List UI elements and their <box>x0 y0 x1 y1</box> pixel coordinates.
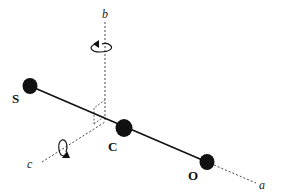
b-rotation-arrow-icon <box>91 40 111 52</box>
c-rotation-arrow-icon <box>59 140 70 158</box>
a-axis-label: a <box>259 178 265 192</box>
atom-c-label: C <box>108 139 117 154</box>
c-axis-line <box>42 122 105 162</box>
molecule-axes-diagram: b c a S C O <box>0 0 283 194</box>
atom-o <box>200 154 215 170</box>
atom-o-label: O <box>188 168 198 183</box>
atom-c <box>116 119 133 137</box>
b-axis-label: b <box>102 7 108 21</box>
atom-s <box>23 78 38 94</box>
a-axis-line <box>214 165 256 183</box>
right-angle-marker <box>94 100 105 124</box>
c-axis-label: c <box>27 157 33 171</box>
atom-s-label: S <box>12 91 19 106</box>
